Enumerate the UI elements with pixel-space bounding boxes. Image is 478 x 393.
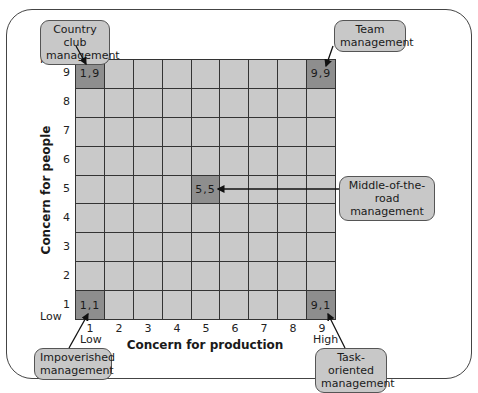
cell	[105, 233, 133, 261]
cell	[192, 147, 220, 175]
cell	[278, 89, 306, 117]
cell	[220, 262, 248, 290]
x-tick: 5	[200, 322, 212, 335]
cell	[134, 262, 162, 290]
callout-line: Country club	[46, 23, 104, 49]
cell	[192, 291, 220, 319]
cell	[278, 204, 306, 232]
cell	[163, 291, 191, 319]
cell	[105, 60, 133, 88]
cell	[105, 262, 133, 290]
callout-impoverished: Impoverished management	[34, 348, 112, 380]
cell	[278, 118, 306, 146]
cell	[163, 233, 191, 261]
callout-line: management	[345, 205, 429, 218]
x-tick: 6	[229, 322, 241, 335]
cell-1-1: 1,1	[76, 291, 104, 319]
cell-label: 9,1	[311, 299, 332, 312]
cell	[278, 291, 306, 319]
y-tick: 3	[60, 240, 70, 253]
cell	[307, 233, 335, 261]
y-tick: 5	[60, 182, 70, 195]
cell	[163, 262, 191, 290]
callout-line: management	[40, 364, 106, 377]
cell	[76, 147, 104, 175]
cell	[192, 262, 220, 290]
cell	[163, 89, 191, 117]
callout-line: Task-oriented	[321, 351, 381, 377]
y-tick: 7	[60, 124, 70, 137]
managerial-grid: 1,9 9,9 5,5 1,1 9,1	[75, 59, 336, 320]
cell	[192, 204, 220, 232]
callout-line: management	[321, 377, 381, 390]
cell-9-9: 9,9	[307, 60, 335, 88]
y-low-label: Low	[40, 310, 62, 323]
cell	[220, 233, 248, 261]
cell	[76, 204, 104, 232]
callout-middle-of-the-road: Middle-of-the-road management	[339, 176, 435, 221]
callout-line: Team	[340, 23, 400, 36]
cell	[76, 233, 104, 261]
cell-5-5: 5,5	[192, 176, 220, 204]
cell	[278, 176, 306, 204]
cell	[278, 147, 306, 175]
cell	[249, 291, 277, 319]
cell	[220, 118, 248, 146]
callout-team: Team management	[334, 20, 406, 52]
cell	[307, 118, 335, 146]
y-tick: 6	[60, 153, 70, 166]
cell	[163, 147, 191, 175]
x-tick: 8	[287, 322, 299, 335]
cell	[192, 89, 220, 117]
cell	[163, 204, 191, 232]
cell	[134, 233, 162, 261]
cell	[134, 147, 162, 175]
cell	[220, 60, 248, 88]
cell	[220, 291, 248, 319]
cell	[220, 89, 248, 117]
y-tick: 4	[60, 211, 70, 224]
cell	[134, 291, 162, 319]
cell	[192, 233, 220, 261]
callout-line: management	[46, 49, 104, 62]
cell	[192, 60, 220, 88]
x-tick: 4	[171, 322, 183, 335]
cell-label: 1,1	[80, 299, 101, 312]
cell	[105, 147, 133, 175]
cell	[105, 89, 133, 117]
cell-label: 5,5	[195, 183, 216, 196]
cell	[134, 176, 162, 204]
cell	[76, 89, 104, 117]
cell	[163, 118, 191, 146]
x-tick: 3	[142, 322, 154, 335]
callout-line: Middle-of-the-road	[345, 179, 429, 205]
x-low-label: Low	[80, 333, 102, 346]
y-tick: 8	[60, 95, 70, 108]
y-axis-label: Concern for people	[39, 126, 53, 255]
cell	[249, 233, 277, 261]
cell	[134, 204, 162, 232]
cell	[278, 60, 306, 88]
x-tick: 2	[113, 322, 125, 335]
cell	[134, 89, 162, 117]
cell	[249, 204, 277, 232]
y-tick: 2	[60, 269, 70, 282]
cell	[307, 176, 335, 204]
cell	[134, 60, 162, 88]
cell	[220, 204, 248, 232]
cell-label: 9,9	[311, 67, 332, 80]
callout-country-club: Country club management	[40, 20, 110, 65]
cell	[249, 89, 277, 117]
cell-9-1: 9,1	[307, 291, 335, 319]
cell	[163, 60, 191, 88]
cell	[105, 118, 133, 146]
x-high-label: High	[313, 333, 338, 346]
cell	[105, 291, 133, 319]
cell	[105, 176, 133, 204]
cell	[220, 147, 248, 175]
cell	[105, 204, 133, 232]
y-tick: 9	[60, 66, 70, 79]
cell	[192, 118, 220, 146]
cell	[134, 118, 162, 146]
cell	[249, 60, 277, 88]
